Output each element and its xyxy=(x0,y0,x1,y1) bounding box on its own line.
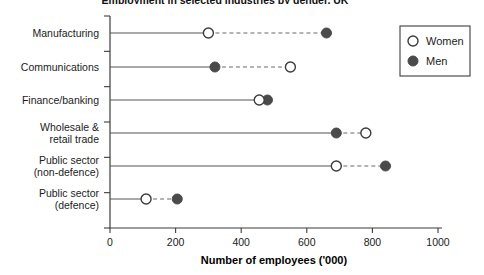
category-label: Communications xyxy=(21,61,99,73)
x-axis-tick-label: 200 xyxy=(167,236,185,248)
data-point-women[interactable] xyxy=(361,128,371,138)
category-label: (non-defence) xyxy=(34,166,99,178)
data-point-men[interactable] xyxy=(172,194,182,204)
category-label: retail trade xyxy=(49,133,99,145)
category-label: Public sector xyxy=(39,187,100,199)
legend-marker-men xyxy=(408,56,418,66)
data-point-men[interactable] xyxy=(321,28,331,38)
data-point-women[interactable] xyxy=(331,161,341,171)
data-point-men[interactable] xyxy=(210,62,220,72)
legend-label-women[interactable]: Women xyxy=(426,35,464,47)
category-label: Wholesale & xyxy=(40,121,99,133)
x-axis-tick-label: 1000 xyxy=(426,236,450,248)
x-axis-tick-label: 800 xyxy=(364,236,382,248)
chart-plot-area: 02004006008001000Number of employees ('0… xyxy=(0,0,484,275)
category-label: (defence) xyxy=(55,199,99,211)
data-point-women[interactable] xyxy=(141,194,151,204)
category-label: Public sector xyxy=(39,154,100,166)
data-point-women[interactable] xyxy=(203,28,213,38)
x-axis-title: Number of employees ('000) xyxy=(201,254,348,266)
category-label: Manufacturing xyxy=(32,27,99,39)
legend-label-men[interactable]: Men xyxy=(426,55,447,67)
x-axis-tick-label: 400 xyxy=(232,236,250,248)
x-axis-tick-label: 0 xyxy=(107,236,113,248)
category-label: Finance/banking xyxy=(22,94,99,106)
legend-marker-women xyxy=(408,36,418,46)
data-point-men[interactable] xyxy=(331,128,341,138)
chart-container: Employment in selected industries by gen… xyxy=(0,0,484,275)
data-point-men[interactable] xyxy=(381,161,391,171)
legend-box xyxy=(400,26,470,76)
x-axis-tick-label: 600 xyxy=(298,236,316,248)
data-point-women[interactable] xyxy=(285,62,295,72)
data-point-women[interactable] xyxy=(254,95,264,105)
